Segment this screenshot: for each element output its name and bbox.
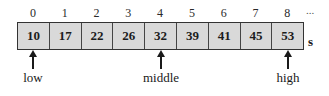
pointer-label-middle: middle xyxy=(143,71,179,85)
array-cell: 45 xyxy=(241,23,273,49)
index-label: 0 xyxy=(17,6,49,20)
arrow-shaft xyxy=(32,57,34,69)
index-label: 5 xyxy=(176,6,208,20)
continuation-ellipsis: ... xyxy=(306,4,314,16)
arrow-shaft xyxy=(160,57,162,69)
array-cell: 10 xyxy=(18,23,50,49)
index-label: 2 xyxy=(81,6,113,20)
up-arrow-icon xyxy=(29,50,37,57)
array-cell: 32 xyxy=(145,23,177,49)
up-arrow-icon xyxy=(284,50,292,57)
array-cell: 53 xyxy=(272,23,303,49)
array-name-label: s xyxy=(308,34,313,50)
array-s: 10 17 22 26 32 39 41 45 53 xyxy=(17,22,304,50)
index-label: 4 xyxy=(144,6,176,20)
index-label: 8 xyxy=(271,6,303,20)
pointer-label-high: high xyxy=(276,71,299,85)
index-label: 3 xyxy=(112,6,144,20)
index-label: 1 xyxy=(49,6,81,20)
index-row: 0 1 2 3 4 5 6 7 8 xyxy=(17,6,303,20)
index-label: 7 xyxy=(240,6,272,20)
array-cell: 17 xyxy=(50,23,82,49)
pointer-high: high xyxy=(268,50,308,85)
index-label: 6 xyxy=(208,6,240,20)
array-cell: 22 xyxy=(82,23,114,49)
pointer-label-low: low xyxy=(23,71,43,85)
pointer-low: low xyxy=(17,50,49,85)
up-arrow-icon xyxy=(157,50,165,57)
arrow-shaft xyxy=(287,57,289,69)
array-cell: 39 xyxy=(177,23,209,49)
array-cell: 41 xyxy=(209,23,241,49)
pointer-middle: middle xyxy=(131,50,191,85)
array-cell: 26 xyxy=(113,23,145,49)
